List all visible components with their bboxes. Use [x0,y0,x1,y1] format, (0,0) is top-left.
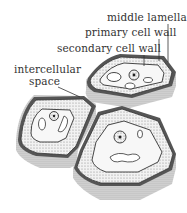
label-middle-lamella: middle lamella [107,12,187,23]
leader-intercellular-space [58,87,80,97]
label-intercellular-space-line2: space [29,76,60,87]
label-intercellular-space-line1: intercellular [14,64,81,75]
label-secondary-cell-wall: secondary cell wall [57,43,161,54]
label-primary-cell-wall: primary cell wall [85,27,176,38]
cell-top-right [86,54,176,108]
